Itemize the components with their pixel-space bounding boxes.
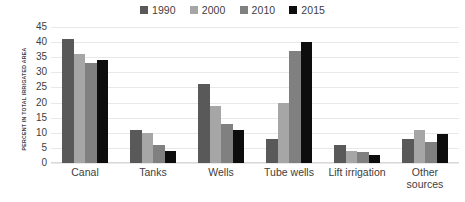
y-axis-tick-label: 30 xyxy=(36,67,47,77)
legend-item-2010[interactable]: 2010 xyxy=(240,5,276,16)
bar[interactable] xyxy=(74,54,86,163)
bar-group xyxy=(51,27,119,163)
bar[interactable] xyxy=(266,139,278,163)
bar[interactable] xyxy=(357,152,369,163)
x-axis-category-label: Tanks xyxy=(119,166,187,190)
legend-swatch-icon xyxy=(140,6,148,14)
bar[interactable] xyxy=(289,51,301,163)
bar[interactable] xyxy=(85,63,97,163)
legend-item-2000[interactable]: 2000 xyxy=(190,5,226,16)
bar[interactable] xyxy=(233,130,245,163)
plot-area xyxy=(51,27,459,163)
bar-chart: 1990200020102015 PERCENT IN TOTAL IRRIGA… xyxy=(0,0,465,202)
legend-item-label: 2015 xyxy=(301,5,325,16)
y-axis-tick-label: 25 xyxy=(36,82,47,92)
bar[interactable] xyxy=(414,130,426,163)
bar[interactable] xyxy=(301,42,313,163)
bar[interactable] xyxy=(97,60,109,163)
x-axis-category-label: Canal xyxy=(51,166,119,190)
y-axis-tick-label: 10 xyxy=(36,128,47,138)
legend-item-label: 1990 xyxy=(152,5,176,16)
legend-item-label: 2010 xyxy=(252,5,276,16)
y-axis-tick-label: 45 xyxy=(36,22,47,32)
bar-set xyxy=(266,27,312,163)
bar-group xyxy=(391,27,459,163)
x-axis-category-label: Wells xyxy=(187,166,255,190)
legend-item-2015[interactable]: 2015 xyxy=(289,5,325,16)
bar[interactable] xyxy=(425,142,437,163)
bar[interactable] xyxy=(221,124,233,163)
legend-swatch-icon xyxy=(240,6,248,14)
bar[interactable] xyxy=(165,151,177,163)
x-axis-category-label: Other sources xyxy=(391,166,459,190)
bar[interactable] xyxy=(142,133,154,163)
bar[interactable] xyxy=(369,155,381,163)
bar[interactable] xyxy=(437,134,449,163)
y-axis-tick-labels: 454035302520151050 xyxy=(27,27,47,163)
bar-set xyxy=(198,27,244,163)
legend-item-label: 2000 xyxy=(202,5,226,16)
bar-groups xyxy=(51,27,459,163)
bar-group xyxy=(255,27,323,163)
bar-set xyxy=(402,27,448,163)
chart-legend: 1990200020102015 xyxy=(0,5,465,16)
bar[interactable] xyxy=(346,151,358,163)
y-axis-tick-label: 20 xyxy=(36,98,47,108)
bar[interactable] xyxy=(130,130,142,163)
y-axis-tick-label: 5 xyxy=(41,143,47,153)
legend-swatch-icon xyxy=(289,6,297,14)
bar[interactable] xyxy=(62,39,74,163)
legend-swatch-icon xyxy=(190,6,198,14)
bar[interactable] xyxy=(278,103,290,163)
x-axis-category-label: Lift irrigation xyxy=(323,166,391,190)
y-axis-tick-label: 15 xyxy=(36,113,47,123)
bar[interactable] xyxy=(198,84,210,163)
bar[interactable] xyxy=(153,145,165,163)
x-axis-category-label: Tube wells xyxy=(255,166,323,190)
bar[interactable] xyxy=(334,145,346,163)
legend-item-1990[interactable]: 1990 xyxy=(140,5,176,16)
x-axis-category-labels: CanalTanksWellsTube wellsLift irrigation… xyxy=(51,166,459,190)
gridline xyxy=(51,163,459,164)
y-axis-tick-label: 0 xyxy=(41,158,47,168)
y-axis-tick-label: 35 xyxy=(36,52,47,62)
bar-group xyxy=(323,27,391,163)
bar-set xyxy=(334,27,380,163)
bar[interactable] xyxy=(210,106,222,163)
bar[interactable] xyxy=(402,139,414,163)
y-axis-tick-label: 40 xyxy=(36,37,47,47)
bar-set xyxy=(62,27,108,163)
bar-group xyxy=(119,27,187,163)
bar-group xyxy=(187,27,255,163)
bar-set xyxy=(130,27,176,163)
